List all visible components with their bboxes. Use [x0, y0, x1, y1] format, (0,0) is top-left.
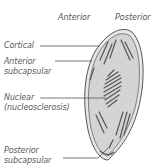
label-posterior-subcapsular-line1: Posterior [4, 146, 39, 156]
lens-illustration [0, 0, 155, 167]
label-anterior-subcapsular-line1: Anterior [4, 57, 36, 67]
label-posterior-subcapsular-line2: subcapsular [4, 156, 51, 166]
label-nuclear-line1: Nuclear [4, 93, 34, 103]
label-anterior-subcapsular-line2: subcapsular [4, 67, 51, 77]
label-cortical: Cortical [4, 41, 34, 51]
label-nuclear-line2: (nucleosclerosis) [4, 103, 70, 113]
